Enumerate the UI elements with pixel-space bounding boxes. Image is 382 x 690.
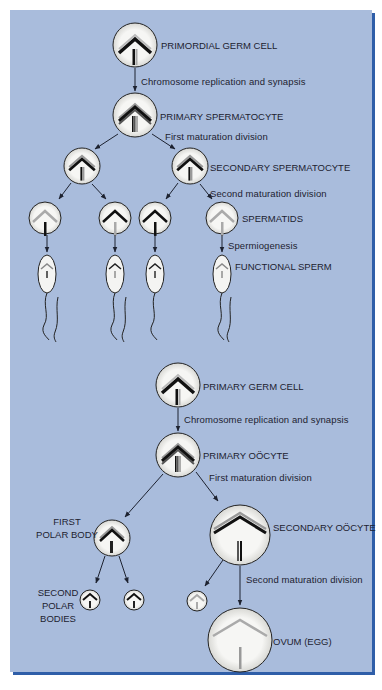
ovum-label: OVUM (EGG) (273, 636, 332, 647)
spermatids-label: SPERMATIDS (242, 213, 303, 224)
sperm-4 (213, 255, 231, 342)
ovum-cell (208, 608, 272, 672)
spermatid-4 (206, 202, 238, 236)
replication-caption-oo: Chromosome replication and synapsis (184, 414, 349, 425)
spermatid-2 (99, 202, 131, 236)
spermatid-3 (139, 202, 171, 236)
second-polar-body-3 (187, 591, 207, 611)
second-polar-body-1 (80, 590, 100, 610)
sperm-2 (106, 255, 126, 342)
secondary-spermatocyte-label: SECONDARY SPERMATOCYTE (210, 162, 350, 173)
first-polar-body-label-line2: POLAR BODY (36, 529, 98, 540)
primary-germ-cell (156, 363, 200, 407)
second-polar-bodies-label-line1: SECOND (38, 587, 79, 598)
primordial-germ-cell (113, 23, 157, 67)
secondary-oocyte-label: SECONDARY OÖCYTE (273, 522, 376, 533)
oogenesis-branch: PRIMARY GERM CELL Chromosome replication… (36, 363, 375, 672)
functional-sperm-label: FUNCTIONAL SPERM (235, 261, 332, 272)
sperm-1 (38, 255, 58, 342)
spermatid-1 (29, 202, 61, 236)
secondary-spermatocyte-right (172, 148, 208, 184)
first-division-caption-oo: First maturation division (209, 472, 312, 483)
second-polar-bodies-label-line3: BODIES (40, 613, 76, 624)
primary-germ-cell-label: PRIMARY GERM CELL (203, 381, 303, 392)
secondary-oocyte-cell (210, 505, 270, 565)
primary-oocyte-label: PRIMARY OÖCYTE (203, 450, 289, 461)
first-division-caption-sperm: First maturation division (165, 131, 268, 142)
sperm-3 (146, 255, 164, 340)
secondary-spermatocyte-left (64, 148, 100, 184)
gametogenesis-diagram: PRIMORDIAL GERM CELL Chromosome replicat… (0, 0, 382, 690)
replication-caption-sperm: Chromosome replication and synapsis (141, 76, 306, 87)
primordial-germ-cell-label: PRIMORDIAL GERM CELL (161, 40, 277, 51)
second-polar-body-2 (124, 590, 144, 610)
primary-spermatocyte-cell (113, 93, 157, 137)
second-polar-bodies-label-line2: POLAR (42, 600, 74, 611)
spermiogenesis-caption: Spermiogenesis (228, 240, 298, 251)
second-division-caption-sperm: Second maturation division (210, 188, 327, 199)
primary-spermatocyte-label: PRIMARY SPERMATOCYTE (160, 111, 283, 122)
first-polar-body-cell (94, 520, 130, 556)
second-division-caption-oo: Second maturation division (246, 574, 363, 585)
primary-oocyte-cell (156, 433, 200, 477)
spermatogenesis-branch: PRIMORDIAL GERM CELL Chromosome replicat… (29, 23, 350, 342)
first-polar-body-label-line1: FIRST (53, 516, 81, 527)
